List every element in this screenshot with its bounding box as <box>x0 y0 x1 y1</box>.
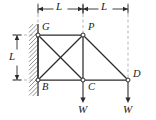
wall-hatch-stroke <box>29 82 38 91</box>
truss-figure: G P B C D W W L L L <box>0 0 156 120</box>
wall-hatch-stroke <box>29 24 33 28</box>
wall-hatch-stroke <box>29 57 38 66</box>
dimension-lines-group <box>13 5 129 81</box>
wall-hatch-stroke <box>29 70 38 79</box>
truss-node-B <box>36 78 40 82</box>
wall-hatch-stroke <box>29 44 38 53</box>
dimension-arrow-v0-top <box>15 35 20 40</box>
truss-node-D <box>126 78 130 82</box>
wall-hatch-stroke <box>29 65 38 74</box>
node-label-C: C <box>88 82 95 93</box>
dimension-arrow-v0-bottom <box>15 75 20 80</box>
wall-hatch-stroke <box>29 86 38 95</box>
dimension-label-L-top-left: L <box>56 1 62 12</box>
node-label-G: G <box>42 22 50 33</box>
node-label-P: P <box>88 22 94 33</box>
node-label-D: D <box>133 69 141 80</box>
wall-hatch-stroke <box>29 61 38 70</box>
load-label-W-at-D: W <box>123 104 132 115</box>
wall-hatch-stroke <box>29 49 38 58</box>
truss-drawing-canvas <box>0 0 156 120</box>
truss-members-group <box>38 35 128 80</box>
wall-hatch-stroke <box>29 36 38 45</box>
load-label-W-at-C: W <box>78 104 87 115</box>
dimension-arrow-h1-end <box>123 7 128 12</box>
truss-node-G <box>36 33 40 37</box>
dimension-label-L-top-right: L <box>101 1 107 12</box>
dimension-arrow-h1-start <box>83 7 88 12</box>
member-PD-diagonal <box>83 35 128 80</box>
truss-node-C <box>81 78 85 82</box>
wall-hatch-stroke <box>29 40 38 49</box>
wall-hatch-stroke <box>29 24 37 32</box>
dimension-arrow-h0-end <box>78 7 83 12</box>
truss-node-P <box>81 33 85 37</box>
dimension-arrow-h0-start <box>38 7 43 12</box>
dimension-label-L-left-vertical: L <box>9 51 15 62</box>
node-label-B: B <box>42 82 48 93</box>
wall-hatch-stroke <box>29 53 38 62</box>
